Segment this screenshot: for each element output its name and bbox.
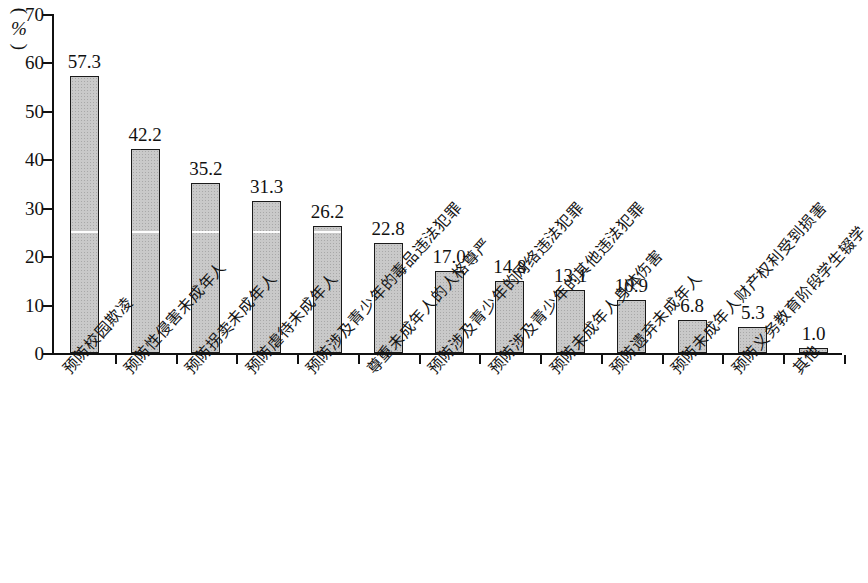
bar: [617, 300, 646, 353]
y-axis-tick-label: 10: [2, 296, 44, 315]
bar-scanline-artifact: [71, 231, 98, 233]
bar-scanline-artifact: [132, 231, 159, 233]
y-axis-tick-label: 20: [2, 247, 44, 266]
bar-value-label: 42.2: [105, 125, 185, 144]
bar-value-label: 5.3: [713, 303, 793, 322]
y-axis-tick: [43, 159, 52, 161]
x-axis-tick: [722, 355, 724, 364]
bar: [252, 201, 281, 353]
y-axis-tick-label: 60: [2, 53, 44, 72]
y-axis-tick: [43, 256, 52, 258]
bar-scanline-artifact: [192, 231, 219, 233]
y-axis-tick-label: 30: [2, 199, 44, 218]
bar: [799, 348, 828, 353]
y-axis-tick-label: 50: [2, 102, 44, 121]
bar: [678, 320, 707, 353]
bar: [191, 183, 220, 353]
bar-scanline-artifact: [314, 231, 341, 233]
plot-area: 57.342.235.231.326.222.817.014.813.110.9…: [52, 14, 842, 355]
x-axis-tick: [662, 355, 664, 364]
x-axis-tick: [236, 355, 238, 364]
y-axis-tick-label: 40: [2, 150, 44, 169]
y-axis-tick: [43, 305, 52, 307]
y-axis-tick: [43, 353, 52, 355]
bar-value-label: 35.2: [166, 159, 246, 178]
x-axis-tick: [479, 355, 481, 364]
y-axis-tick: [43, 111, 52, 113]
bar-scanline-artifact: [253, 231, 280, 233]
x-axis-tick: [844, 355, 846, 364]
bar-value-label: 57.3: [44, 52, 124, 71]
bar: [70, 76, 99, 353]
bar-value-label: 10.9: [591, 276, 671, 295]
bar: [435, 271, 464, 353]
bar: [495, 281, 524, 353]
y-axis-tick-label: 0: [2, 344, 44, 363]
x-axis-tick: [540, 355, 542, 364]
bar-value-label: 1.0: [774, 324, 854, 343]
x-axis-tick: [419, 355, 421, 364]
x-axis-tick: [176, 355, 178, 364]
bar: [131, 149, 160, 353]
y-axis-tick: [43, 208, 52, 210]
x-axis-tick: [297, 355, 299, 364]
x-axis-tick: [783, 355, 785, 364]
bar: [374, 243, 403, 353]
y-axis-tick: [43, 14, 52, 16]
x-axis-tick: [358, 355, 360, 364]
bar-value-label: 31.3: [227, 177, 307, 196]
bar: [556, 290, 585, 353]
bar: [738, 327, 767, 353]
bar: [313, 226, 342, 353]
bar-value-label: 22.8: [348, 219, 428, 238]
x-axis-tick: [601, 355, 603, 364]
y-axis-tick-label: 70: [2, 5, 44, 24]
x-axis-tick: [115, 355, 117, 364]
y-axis-tick-labels: 010203040506070: [0, 14, 44, 355]
